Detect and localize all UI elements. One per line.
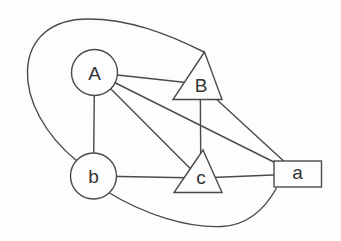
- edge-b-a-curve: [106, 188, 277, 227]
- graph-diagram-canvas: A B b c a: [0, 0, 341, 241]
- node-b-label: b: [88, 166, 99, 187]
- node-A-label: A: [88, 63, 101, 84]
- node-c-label: c: [196, 167, 206, 188]
- node-B-label: B: [195, 75, 208, 96]
- edge-b-B-curve: [27, 19, 204, 161]
- edges: [27, 19, 297, 227]
- node-a-label: a: [292, 162, 303, 183]
- graph-diagram: A B b c a: [0, 0, 341, 241]
- node-labels: A B b c a: [88, 63, 303, 189]
